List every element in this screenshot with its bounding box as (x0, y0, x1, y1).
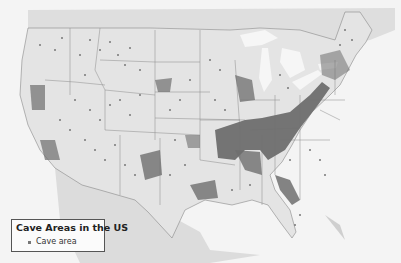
legend-title: Cave Areas in the US (16, 222, 100, 234)
legend-label: Cave area (36, 237, 77, 247)
map-legend: Cave Areas in the US Cave area (11, 219, 105, 252)
cave-area-swatch-icon (28, 241, 31, 244)
legend-item-cave-area: Cave area (16, 237, 100, 247)
